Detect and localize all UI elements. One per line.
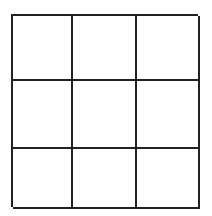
cell-r1-c2[interactable] — [73, 16, 137, 81]
game-board — [11, 14, 198, 207]
cell-r3-c1[interactable] — [13, 149, 73, 209]
cell-r1-c3[interactable] — [137, 16, 200, 81]
cell-r3-c2[interactable] — [73, 149, 137, 209]
cell-r2-c1[interactable] — [13, 81, 73, 149]
cell-r2-c3[interactable] — [137, 81, 200, 149]
cell-r3-c3[interactable] — [137, 149, 200, 209]
cell-r2-c2[interactable] — [73, 81, 137, 149]
cell-r1-c1[interactable] — [13, 16, 73, 81]
